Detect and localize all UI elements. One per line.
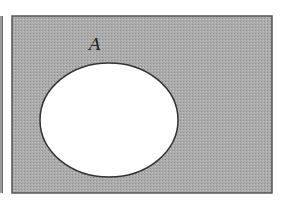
set-a-label: A [87, 34, 101, 54]
set-a-ellipse [40, 63, 178, 177]
venn-diagram: A [0, 0, 284, 207]
